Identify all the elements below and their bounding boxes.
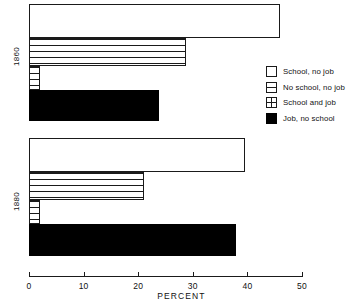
open-square-icon bbox=[266, 66, 277, 77]
bar-1860-school-and-job bbox=[29, 66, 40, 90]
legend-item-school-and-job: School and job bbox=[266, 97, 362, 108]
bar-group-1860 bbox=[29, 4, 302, 114]
x-tick-30 bbox=[193, 272, 194, 277]
x-tick-50 bbox=[302, 272, 303, 277]
bar-group-1880 bbox=[29, 138, 302, 256]
hlines-square-icon bbox=[266, 82, 277, 93]
bar-1880-job-no-school bbox=[29, 224, 236, 256]
legend-item-school-no-job: School, no job bbox=[266, 66, 362, 77]
legend-label: Job, no school bbox=[283, 114, 335, 123]
x-tick-label-50: 50 bbox=[297, 281, 307, 291]
grid-square-icon bbox=[266, 97, 277, 108]
bar-1860-job-no-school bbox=[29, 90, 159, 121]
x-tick-label-0: 0 bbox=[27, 281, 32, 291]
x-axis bbox=[29, 276, 302, 277]
x-tick-label-10: 10 bbox=[79, 281, 89, 291]
x-axis-title: PERCENT bbox=[0, 291, 363, 301]
legend-item-no-school-no-job: No school, no job bbox=[266, 82, 362, 93]
solid-square-icon bbox=[266, 113, 277, 124]
x-tick-0 bbox=[29, 272, 30, 277]
x-tick-label-40: 40 bbox=[242, 281, 252, 291]
bar-chart: 1860 1880 01020304050 PERCENT School, no… bbox=[0, 0, 363, 303]
x-tick-20 bbox=[138, 272, 139, 277]
bar-1880-no-school-no-job bbox=[29, 172, 144, 200]
bar-1880-school-and-job bbox=[29, 200, 40, 224]
bar-1880-school-no-job bbox=[29, 138, 245, 172]
legend-item-job-no-school: Job, no school bbox=[266, 113, 362, 124]
x-tick-label-20: 20 bbox=[133, 281, 143, 291]
x-tick-label-30: 30 bbox=[188, 281, 198, 291]
legend-label: No school, no job bbox=[283, 83, 345, 92]
legend: School, no job No school, no job School … bbox=[266, 66, 362, 128]
plot-area bbox=[29, 4, 302, 260]
group-label-1860: 1860 bbox=[12, 47, 21, 66]
legend-label: School and job bbox=[283, 98, 336, 107]
x-tick-40 bbox=[247, 272, 248, 277]
group-label-1880: 1880 bbox=[12, 192, 21, 211]
legend-label: School, no job bbox=[283, 67, 334, 76]
bar-1860-no-school-no-job bbox=[29, 38, 186, 66]
bar-1860-school-no-job bbox=[29, 4, 280, 38]
x-tick-10 bbox=[84, 272, 85, 277]
